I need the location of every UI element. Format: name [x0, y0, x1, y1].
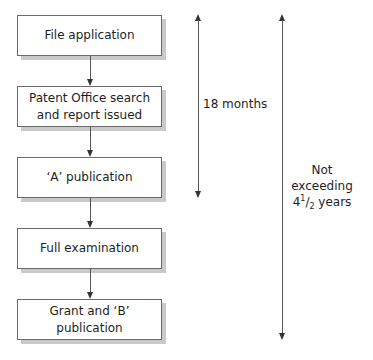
years-unit: years: [315, 195, 352, 209]
step-label: ‘A’ publication: [46, 169, 132, 186]
step-search-report: Patent Office search and report issued: [17, 86, 162, 127]
timeline-label-line1: Not exceeding: [284, 162, 360, 194]
timeline-18-months-label: 18 months: [203, 96, 267, 112]
step-label: Full examination: [40, 240, 139, 257]
step-grant-b-publication: Grant and ‘B’ publication: [17, 299, 162, 340]
fraction-numerator: 1: [300, 194, 305, 203]
step-label: Grant and ‘B’ publication: [18, 303, 161, 337]
timeline-4-5-years-label: Not exceeding 41/2 years: [284, 162, 360, 210]
step-a-publication: ‘A’ publication: [17, 157, 162, 198]
step-label: Patent Office search and report issued: [25, 90, 155, 124]
step-file-application: File application: [17, 15, 162, 56]
step-full-examination: Full examination: [17, 228, 162, 269]
step-label: File application: [44, 27, 134, 44]
timeline-label-line2: 41/2 years: [284, 194, 360, 210]
